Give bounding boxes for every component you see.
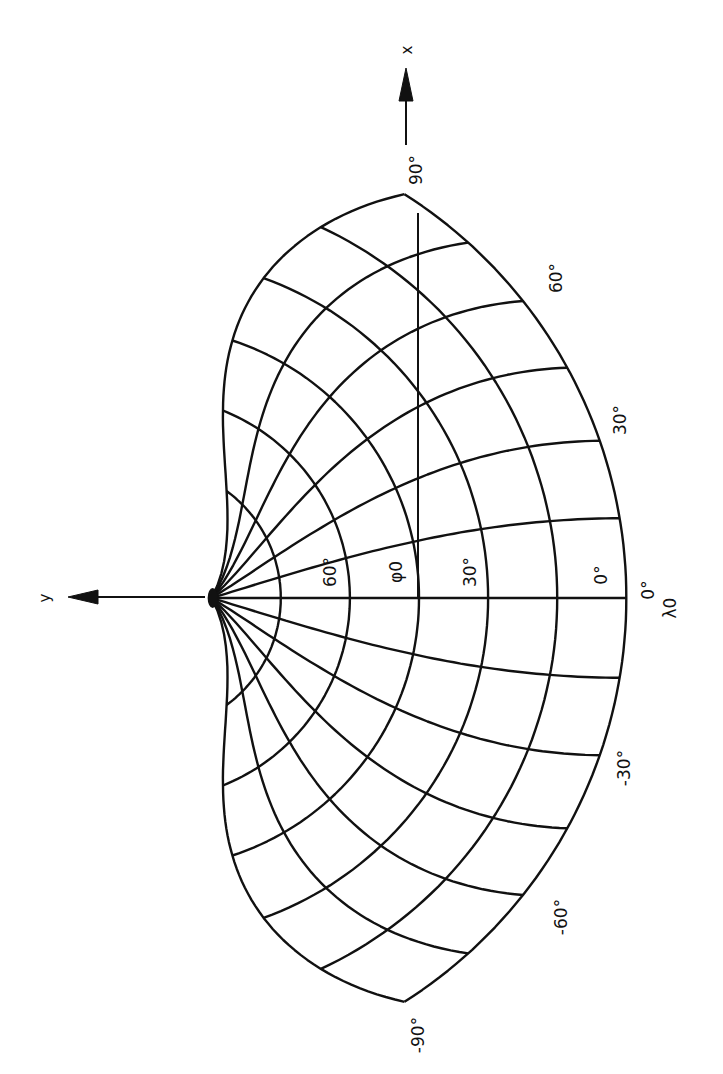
lon-label-minus-30: -30° xyxy=(614,750,634,786)
x-axis-arrowhead-icon xyxy=(399,68,413,101)
bonne-projection-diagram: x y 90° 60° 30° 0° -30° -60° -90° 60° φ0… xyxy=(0,0,723,1074)
lon-label-30: 30° xyxy=(610,405,630,435)
y-axis-arrowhead-icon xyxy=(68,590,98,604)
lon-label-0: 0° xyxy=(638,580,658,599)
lon-label-60: 60° xyxy=(546,263,566,293)
meridian-minus-90 xyxy=(212,598,405,1002)
lambda0-label: λ0 xyxy=(660,598,680,619)
meridian-minus-75 xyxy=(212,598,469,953)
text-layer: x y 90° 60° 30° 0° -30° -60° -90° 60° φ0… xyxy=(36,45,680,1053)
lat-label-phi0: φ0 xyxy=(386,561,406,583)
graticule xyxy=(208,194,627,1002)
lon-label-90: 90° xyxy=(406,155,426,185)
x-axis-label: x xyxy=(398,45,416,54)
lat-label-0: 0° xyxy=(591,565,611,584)
north-pole-point xyxy=(208,588,218,608)
lon-label-minus-90: -90° xyxy=(408,1017,428,1053)
lat-label-30: 30° xyxy=(460,557,480,587)
lat-label-60: 60° xyxy=(320,557,340,587)
y-axis-label: y xyxy=(36,593,54,602)
lon-label-minus-60: -60° xyxy=(551,899,571,935)
meridian-75 xyxy=(212,243,469,598)
meridian-minus-30 xyxy=(212,598,600,755)
meridian-90 xyxy=(212,194,405,598)
